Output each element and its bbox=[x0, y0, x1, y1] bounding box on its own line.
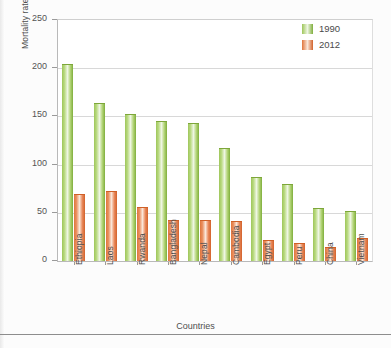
bar-group bbox=[309, 20, 340, 261]
y-axis-tick: 150 bbox=[0, 115, 57, 116]
orange-swatch-icon bbox=[302, 40, 313, 50]
bar[interactable] bbox=[156, 121, 167, 261]
x-axis-tick-cell: Vietnam bbox=[341, 263, 372, 319]
bar-group bbox=[184, 20, 215, 261]
legend-item-label: 2012 bbox=[319, 39, 340, 50]
x-axis-tick-cell: Ethiopia bbox=[58, 263, 89, 319]
x-axis-tick-label: Laos bbox=[105, 246, 115, 265]
bar[interactable] bbox=[62, 64, 73, 261]
y-axis-tick: 200 bbox=[0, 67, 57, 68]
x-axis-tick-cell: Cambodia bbox=[215, 263, 246, 319]
y-axis-tick-label: 50 bbox=[23, 206, 47, 216]
bar-group bbox=[58, 20, 89, 261]
legend-item-label: 1990 bbox=[319, 23, 340, 34]
y-axis-tick-label: 250 bbox=[23, 13, 47, 23]
x-axis-tick-label: China bbox=[325, 242, 335, 265]
x-axis-tick-label: Egypt bbox=[262, 243, 272, 265]
legend-item[interactable]: 2012 bbox=[302, 39, 376, 50]
bar[interactable] bbox=[219, 148, 230, 261]
bar-groups bbox=[58, 20, 372, 261]
bar[interactable] bbox=[94, 103, 105, 261]
x-axis-tick-labels: EthiopiaLaosRwandaBangladeshNepalCambodi… bbox=[58, 263, 372, 319]
chart-figure: Mortality rate, per 1,000 live births 05… bbox=[0, 0, 391, 348]
x-axis-tick-cell: Nepal bbox=[184, 263, 215, 319]
x-axis-tick-cell: Peru bbox=[278, 263, 309, 319]
bar-group bbox=[341, 20, 372, 261]
bar[interactable] bbox=[282, 184, 293, 261]
y-axis-tick-list: 050100150200250 bbox=[0, 19, 57, 262]
x-axis-tick-label: Cambodia bbox=[231, 225, 241, 265]
x-axis-tick-label: Ethiopia bbox=[74, 233, 84, 265]
x-axis-tick-label: Rwanda bbox=[137, 233, 147, 265]
bar-group bbox=[89, 20, 120, 261]
x-axis-tick-cell: Laos bbox=[89, 263, 120, 319]
y-axis-tick: 50 bbox=[0, 212, 57, 213]
bar-group bbox=[121, 20, 152, 261]
green-swatch-icon bbox=[302, 24, 313, 34]
x-axis-tick-label: Peru bbox=[294, 247, 304, 265]
y-axis-tick-label: 100 bbox=[23, 158, 47, 168]
bar[interactable] bbox=[345, 211, 356, 261]
bar[interactable] bbox=[125, 114, 136, 261]
y-axis-tick: 250 bbox=[0, 19, 57, 20]
bar-group bbox=[246, 20, 277, 261]
x-axis-tick-label: Vietnam bbox=[356, 233, 366, 265]
chart-legend: 19902012 bbox=[302, 23, 376, 55]
bar[interactable] bbox=[251, 177, 262, 261]
x-axis-tick-cell: Rwanda bbox=[121, 263, 152, 319]
bar[interactable] bbox=[313, 208, 324, 261]
y-axis-tick: 0 bbox=[0, 260, 57, 261]
x-axis-tick-label: Nepal bbox=[199, 242, 209, 265]
y-axis-tick-label: 200 bbox=[23, 61, 47, 71]
x-axis-tick-cell: Egypt bbox=[246, 263, 277, 319]
x-axis-title: Countries bbox=[0, 321, 391, 331]
bar-group bbox=[278, 20, 309, 261]
x-axis-tick-cell: China bbox=[309, 263, 340, 319]
page-footer-rule bbox=[0, 334, 391, 335]
x-axis-tick-label: Bangladesh bbox=[168, 219, 178, 265]
y-axis-tick-label: 0 bbox=[23, 254, 47, 264]
legend-item[interactable]: 1990 bbox=[302, 23, 376, 34]
bar[interactable] bbox=[188, 123, 199, 261]
y-axis-tick-label: 150 bbox=[23, 109, 47, 119]
y-axis-tick: 100 bbox=[0, 164, 57, 165]
x-axis-tick-cell: Bangladesh bbox=[152, 263, 183, 319]
